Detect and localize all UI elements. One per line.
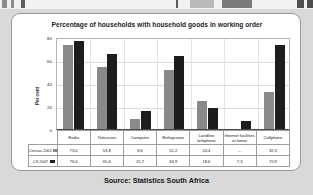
y-axis-tick-20: 20 — [38, 105, 52, 110]
data-cell: 53,8 — [90, 145, 123, 156]
cropped-top-strip — [0, 0, 313, 9]
y-axis-tick-80: 80 — [38, 36, 52, 41]
bar — [130, 119, 140, 129]
bar — [241, 121, 251, 129]
series-label-census-2001: Census 2001 — [29, 145, 58, 156]
category-header: Computer — [123, 131, 156, 145]
data-cell: 8,6 — [123, 145, 156, 156]
category-header: Radio — [57, 131, 90, 145]
data-table-wrap: RadioTelevisionComputerRefrigeratorLandl… — [28, 130, 290, 164]
bar-group — [258, 39, 290, 129]
bar — [275, 45, 285, 129]
data-cell: 76,6 — [57, 156, 90, 167]
category-header: Refrigerator — [157, 131, 190, 145]
category-header: Landline telephone — [190, 131, 223, 145]
data-row: Census 200173,053,88,651,224,4–32,3 — [29, 145, 290, 156]
bar-group — [57, 39, 90, 129]
plot-canvas — [56, 38, 290, 130]
bar — [74, 41, 84, 129]
chart-title: Percentage of households with household … — [20, 20, 294, 29]
y-axis-ticks: 020406080 — [38, 38, 54, 130]
data-cell: 73,0 — [57, 145, 90, 156]
bar-group — [157, 39, 190, 129]
category-header: Internet facilities at home — [223, 131, 256, 145]
plot-area: Per cent 020406080 RadioTelevisionComput… — [28, 38, 290, 164]
data-table: RadioTelevisionComputerRefrigeratorLandl… — [28, 130, 290, 167]
category-header: Television — [90, 131, 123, 145]
bar — [197, 101, 207, 129]
bar — [264, 92, 274, 129]
bar — [107, 54, 117, 129]
data-table-body: RadioTelevisionComputerRefrigeratorLandl… — [29, 131, 290, 167]
bar-group — [191, 39, 224, 129]
chart-card: Percentage of households with household … — [11, 13, 301, 171]
table-corner — [29, 131, 58, 145]
bar — [97, 67, 107, 129]
data-cell: – — [223, 145, 256, 156]
bar — [208, 108, 218, 129]
bar-group — [124, 39, 157, 129]
bar — [164, 70, 174, 129]
data-cell: 15,7 — [123, 156, 156, 167]
cs-2007-swatch — [50, 160, 55, 163]
data-cell: 32,3 — [256, 145, 289, 156]
source-note: Source: Statistics South Africa — [0, 176, 313, 185]
bar-group — [90, 39, 123, 129]
y-axis-tick-60: 60 — [38, 59, 52, 64]
data-cell: 24,4 — [190, 145, 223, 156]
data-cell: 63,9 — [157, 156, 190, 167]
category-header: Cellphone — [256, 131, 289, 145]
figure-page: Percentage of households with household … — [0, 9, 313, 195]
y-axis-tick-40: 40 — [38, 82, 52, 87]
bar — [174, 56, 184, 129]
data-row: CS 200776,665,615,763,918,67,372,9 — [29, 156, 290, 167]
data-cell: 7,3 — [223, 156, 256, 167]
bar — [141, 111, 151, 129]
census-2001-swatch — [53, 149, 58, 152]
data-cell: 18,6 — [190, 156, 223, 167]
data-cell: 65,6 — [90, 156, 123, 167]
series-label-cs-2007: CS 2007 — [29, 156, 58, 167]
bar — [63, 45, 73, 129]
data-cell: 72,9 — [256, 156, 289, 167]
bar-group — [224, 39, 257, 129]
category-row: RadioTelevisionComputerRefrigeratorLandl… — [29, 131, 290, 145]
data-cell: 51,2 — [157, 145, 190, 156]
